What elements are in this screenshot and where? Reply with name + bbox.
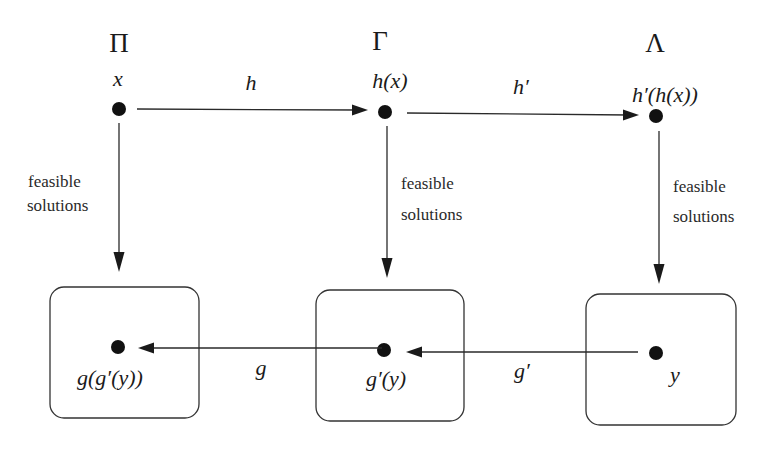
arrow-feasible-lambda	[654, 131, 665, 284]
solution-label-lambda: y	[668, 362, 680, 387]
problem-gamma-symbol: Γ	[372, 26, 388, 56]
map-g-prime-label: g′	[514, 358, 531, 383]
feasible-label-lambda-line1: feasible	[673, 177, 726, 196]
instance-hphx-label: h′(h(x))	[632, 82, 698, 107]
arrow-h	[137, 105, 368, 116]
reduction-diagram: Π Γ Λ x h(x) h′(h(x)) h h′ feasible solu…	[0, 0, 777, 450]
instance-hx-label: h(x)	[372, 68, 407, 93]
arrow-feasible-pi	[114, 123, 125, 272]
instance-x-label: x	[112, 66, 123, 91]
feasible-label-pi-line2: solutions	[27, 196, 88, 215]
solution-box-gamma	[316, 290, 464, 421]
instance-hphx-dot	[649, 109, 663, 123]
map-g-label: g	[256, 355, 267, 380]
solution-dot-lambda	[649, 346, 663, 360]
problem-lambda-symbol: Λ	[645, 28, 665, 58]
solution-box-pi	[50, 287, 199, 418]
map-h-label: h	[246, 70, 257, 95]
solution-label-pi: g(g′(y))	[77, 365, 143, 390]
solution-dot-gamma	[377, 343, 391, 357]
arrow-g-prime	[406, 347, 638, 358]
arrow-g	[138, 343, 382, 354]
solution-label-gamma: g′(y)	[366, 366, 406, 391]
feasible-label-gamma-line2: solutions	[401, 205, 462, 224]
map-h-prime-label: h′	[513, 74, 530, 99]
feasible-label-gamma-line1: feasible	[401, 174, 454, 193]
arrow-h-prime	[407, 110, 639, 121]
instance-x-dot	[112, 102, 126, 116]
problem-pi-symbol: Π	[109, 28, 129, 58]
feasible-label-lambda-line2: solutions	[673, 207, 734, 226]
instance-hx-dot	[378, 105, 392, 119]
arrow-feasible-gamma	[382, 126, 393, 278]
solution-dot-pi	[111, 340, 125, 354]
solution-box-lambda	[586, 294, 736, 425]
feasible-label-pi-line1: feasible	[28, 172, 81, 191]
